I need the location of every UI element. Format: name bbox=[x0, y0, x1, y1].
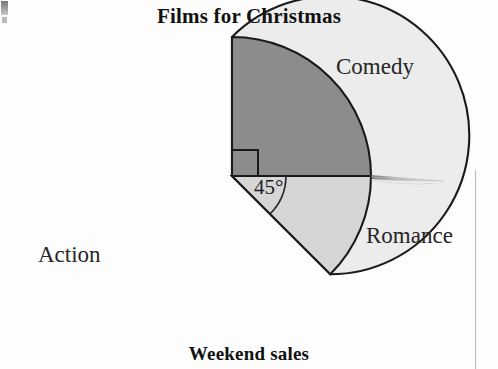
chart-page: Films for Christmas Comedy Romance Actio… bbox=[0, 0, 498, 369]
pie-chart-graphic bbox=[0, 0, 498, 369]
angle-label-45-degrees: 45° bbox=[254, 177, 283, 198]
chart-title: Films for Christmas bbox=[0, 6, 498, 27]
scan-artifact-vertical-rule bbox=[475, 170, 476, 369]
pie-label-action: Action bbox=[38, 243, 101, 266]
pie-label-comedy: Comedy bbox=[336, 55, 414, 78]
chart-footer-caption: Weekend sales bbox=[0, 344, 498, 363]
pie-label-romance: Romance bbox=[366, 224, 453, 247]
